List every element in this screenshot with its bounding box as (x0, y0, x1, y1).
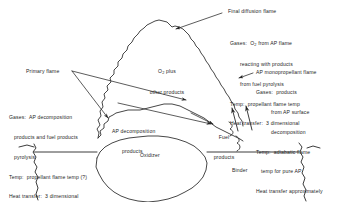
callout-left-line-4: Temp: propellant flame temp (?) (9, 174, 87, 181)
callout-left-line-2: products and fuel products (9, 134, 87, 141)
label-fuel-products: Fuel products (211, 121, 237, 174)
label-binder: Binder (232, 167, 248, 174)
callout-right-line-3: decomposition (256, 129, 323, 136)
label-fuel-line-2: products (211, 154, 237, 161)
label-primary-flame: Primary flame (26, 68, 59, 75)
callout-left-line-3: pyrolysis (9, 154, 87, 161)
label-other-products: other products (143, 89, 191, 96)
label-o2-plus-other-products: O2 plus other products (143, 55, 191, 109)
callout-right-line-1: Gases: products (256, 89, 323, 96)
label-o2-plus-line: O2 plus (143, 68, 191, 76)
callout-left-line-5: Heat transfer: 3 dimensional (9, 193, 87, 200)
callout-right-line-2: from AP surface (256, 109, 323, 116)
label-fuel-line-1: Fuel (211, 134, 237, 141)
leader-final-diffusion-flame (176, 13, 222, 29)
callout-top-right-line-1: Gases: O2 from AP flame (230, 40, 300, 48)
label-final-diffusion-flame: Final diffusion flame (228, 8, 276, 15)
label-ap-decomposition-line-1: AP decomposition (112, 128, 155, 135)
label-ap-monopropellant-flame: AP monopropellant flame (256, 69, 317, 76)
callout-top-right-line-2: reacting with products (230, 61, 300, 68)
callout-left-line-1: Gases: AP decomposition (9, 114, 87, 121)
callout-left: Gases: AP decomposition products and fue… (9, 101, 87, 202)
combustion-zone-diagram: Final diffusion flame Gases: O2 from AP … (0, 0, 349, 202)
label-oxidizer: Oxidizer (140, 152, 160, 159)
label-ap-decomposition-products: AP decomposition products (112, 115, 155, 168)
callout-right-line-6: Heat transfer approximately (256, 188, 323, 195)
callout-right-line-4: Temp: adiabatic flame (256, 149, 323, 156)
callout-right-line-5: temp for pure AP (256, 168, 323, 175)
callout-right: Gases: products from AP surface decompos… (256, 76, 323, 202)
